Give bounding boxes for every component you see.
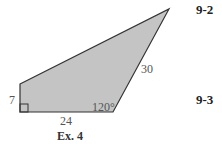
left-side-label: 7: [9, 94, 15, 106]
bottom-side-label: 24: [60, 115, 72, 127]
slant-side-label: 30: [141, 63, 153, 75]
shaded-quadrilateral: [20, 9, 169, 112]
trapezoid-figure: [0, 0, 222, 152]
section-number-9-2: 9-2: [196, 3, 213, 16]
figure-caption: Ex. 4: [57, 130, 83, 142]
section-number-9-3: 9-3: [196, 93, 213, 106]
angle-label: 120°: [92, 101, 115, 113]
